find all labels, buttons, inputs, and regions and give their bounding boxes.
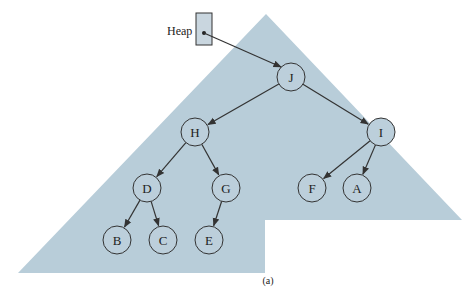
heap-pointer-box <box>196 13 212 45</box>
tree-node-G: G <box>212 174 240 202</box>
heap-diagram: JHIDGFABCE Heap (a) <box>0 0 474 304</box>
heap-label: Heap <box>167 24 192 38</box>
figure-caption: (a) <box>262 275 273 287</box>
tree-node-I: I <box>367 118 395 146</box>
tree-node-J: J <box>277 63 305 91</box>
node-label: A <box>352 181 362 196</box>
tree-node-H: H <box>181 118 209 146</box>
node-label: B <box>113 233 122 248</box>
node-label: I <box>379 125 383 140</box>
node-label: G <box>221 181 230 196</box>
node-label: F <box>308 181 315 196</box>
node-label: C <box>159 233 168 248</box>
node-label: H <box>190 125 199 140</box>
tree-node-F: F <box>298 174 326 202</box>
tree-node-B: B <box>103 226 131 254</box>
node-label: J <box>288 70 293 85</box>
tree-node-C: C <box>149 226 177 254</box>
tree-node-D: D <box>133 174 161 202</box>
tree-node-E: E <box>195 226 223 254</box>
tree-node-A: A <box>343 174 371 202</box>
node-label: E <box>205 233 213 248</box>
heap-region <box>18 14 462 273</box>
node-label: D <box>142 181 151 196</box>
